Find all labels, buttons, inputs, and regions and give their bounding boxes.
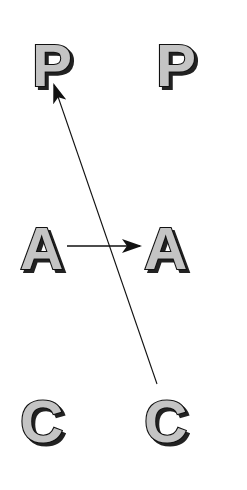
diagonal-arrow — [54, 85, 157, 384]
right-p-letter: P P — [156, 32, 199, 102]
left-c-letter: C C — [20, 388, 66, 458]
left-a-letter: A A — [20, 215, 66, 285]
diagram-canvas: P P A A C C P P A A C C — [0, 0, 247, 490]
svg-text:P: P — [156, 32, 196, 99]
svg-text:P: P — [32, 32, 72, 99]
right-a-letter: A A — [144, 215, 190, 285]
right-c-letter: C C — [144, 388, 190, 458]
svg-text:A: A — [20, 215, 63, 282]
svg-text:A: A — [144, 215, 187, 282]
svg-text:C: C — [144, 388, 187, 455]
svg-text:C: C — [20, 388, 63, 455]
left-p-letter: P P — [32, 32, 75, 102]
